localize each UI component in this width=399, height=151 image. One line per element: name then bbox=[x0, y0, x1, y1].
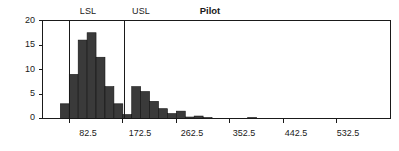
x-tick-label-442: 442.5 bbox=[276, 128, 316, 138]
histogram-bar bbox=[150, 101, 159, 118]
histogram-bar bbox=[176, 111, 185, 118]
x-tick-label-532: 532.5 bbox=[328, 128, 368, 138]
y-tick-label-20: 20 bbox=[18, 15, 35, 25]
histogram-bar bbox=[159, 109, 168, 119]
histogram-bar bbox=[141, 92, 150, 119]
y-tick-label-5: 5 bbox=[18, 88, 35, 98]
histogram-bar bbox=[167, 114, 176, 119]
histogram-bar bbox=[96, 57, 105, 118]
histogram-bar bbox=[87, 33, 96, 119]
x-tick-label-82: 82.5 bbox=[68, 128, 108, 138]
y-tick-label-15: 15 bbox=[18, 39, 35, 49]
histogram-bar bbox=[60, 104, 69, 119]
chart-title: Pilot bbox=[180, 5, 240, 16]
histogram-chart: 20 15 10 5 0 82.5 172.5 262.5 352.5 442.… bbox=[0, 0, 399, 151]
y-tick-label-10: 10 bbox=[18, 64, 35, 74]
histogram-bar bbox=[114, 104, 123, 119]
usl-label: USL bbox=[123, 6, 159, 16]
x-tick-label-352: 352.5 bbox=[224, 128, 264, 138]
x-tick-label-262: 262.5 bbox=[172, 128, 212, 138]
x-tick-label-172: 172.5 bbox=[120, 128, 160, 138]
y-tick-label-0: 0 bbox=[18, 112, 35, 122]
histogram-bar bbox=[69, 74, 78, 118]
histogram-bar bbox=[105, 87, 114, 119]
histogram-bar bbox=[132, 87, 141, 119]
histogram-bar bbox=[78, 40, 87, 118]
lsl-label: LSL bbox=[70, 6, 106, 16]
